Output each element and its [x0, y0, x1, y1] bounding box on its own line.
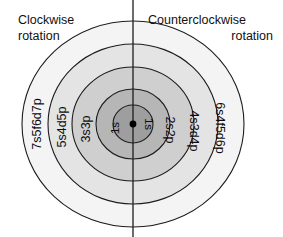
orbital-label-right-4s3d4p: 4s3d4p: [187, 110, 201, 151]
counterclockwise-heading-line2: rotation: [231, 29, 273, 43]
orbital-label-left-3s3p: 3s3p: [79, 115, 93, 142]
clockwise-heading-line1: Clockwise: [18, 13, 74, 27]
electron-shell-rotation-diagram: Clockwise rotation Counterclockwise rota…: [0, 0, 283, 237]
nucleus-dot: [130, 121, 137, 128]
orbital-label-left-7s5f6d7p: 7s5f6d7p: [30, 98, 44, 149]
orbital-label-right-1s: 1s: [143, 118, 155, 130]
orbital-label-left-5s4d5p: 5s4d5p: [55, 106, 69, 147]
orbital-label-left-1s: 1s: [109, 122, 121, 134]
counterclockwise-heading-line1: Counterclockwise: [148, 13, 246, 27]
clockwise-heading-line2: rotation: [18, 29, 60, 43]
orbital-label-right-6s4f5d6p: 6s4f5d6p: [213, 102, 227, 153]
orbital-label-right-2s2p: 2s2p: [163, 116, 177, 143]
